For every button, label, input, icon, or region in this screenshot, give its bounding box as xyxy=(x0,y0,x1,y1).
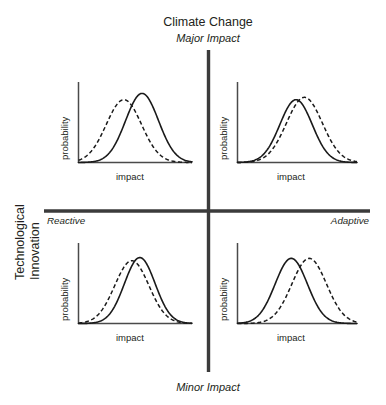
panel-ylabel: probability xyxy=(218,277,229,321)
vertical-axis-top-label: Major Impact xyxy=(176,32,241,44)
distribution-curve-dashed xyxy=(238,97,358,162)
distribution-curve-dashed xyxy=(79,261,193,324)
horizontal-axis-right-label: Adaptive xyxy=(330,215,370,226)
panel-top-left: probability impact xyxy=(59,82,192,182)
panel-ylabel-group: probability xyxy=(59,277,70,321)
panel-xlabel: impact xyxy=(277,332,305,343)
horizontal-axis-title-line2: Innovation xyxy=(28,222,42,280)
panel-ylabel-group: probability xyxy=(218,116,229,160)
panel-ylabel: probability xyxy=(218,116,229,160)
distribution-curve-solid xyxy=(79,93,193,162)
panel-top-right: probability impact xyxy=(218,82,357,182)
figure-canvas: Climate Change Major Impact Minor Impact… xyxy=(0,0,386,405)
horizontal-axis-title-group: Technological Innovation xyxy=(13,204,42,280)
panel-xlabel: impact xyxy=(116,332,144,343)
horizontal-axis-title-line1: Technological xyxy=(13,204,27,280)
panel-xlabel: impact xyxy=(116,171,144,182)
vertical-axis-bottom-label: Minor Impact xyxy=(176,381,241,393)
vertical-axis-title: Climate Change xyxy=(163,15,253,29)
panel-ylabel-group: probability xyxy=(218,277,229,321)
panel-bottom-right: probability impact xyxy=(218,243,357,343)
horizontal-axis-left-label: Reactive xyxy=(47,215,86,226)
distribution-curve-dashed xyxy=(238,258,358,323)
distribution-curve-solid xyxy=(238,258,358,323)
panel-ylabel: probability xyxy=(59,277,70,321)
panel-ylabel: probability xyxy=(59,116,70,160)
quadrant-figure: Climate Change Major Impact Minor Impact… xyxy=(0,0,386,405)
panel-ylabel-group: probability xyxy=(59,116,70,160)
panel-bottom-left: probability impact xyxy=(59,243,192,343)
distribution-curve-solid xyxy=(79,258,193,324)
panel-xlabel: impact xyxy=(277,171,305,182)
